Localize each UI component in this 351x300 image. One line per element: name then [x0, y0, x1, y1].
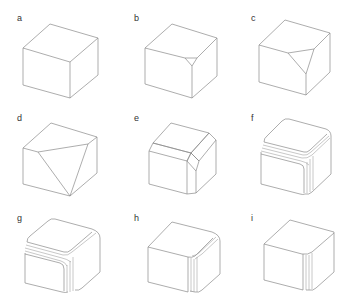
panel-e: e — [117, 100, 234, 200]
cube-large-chamfer-icon — [0, 100, 117, 200]
panel-b: b — [117, 0, 234, 100]
panel-c: c — [234, 0, 351, 100]
panel-f: f — [234, 100, 351, 200]
cube-rounded-multiline-left-icon — [0, 200, 117, 300]
panel-a: a — [0, 0, 117, 100]
panel-h: h — [117, 200, 234, 300]
cube-rounded-multiline-icon — [234, 100, 351, 200]
cube-rounded-vertical-multiline-icon — [117, 200, 234, 300]
cube-plain-icon — [0, 0, 117, 100]
cube-rounded-vertical-icon — [234, 200, 351, 300]
panel-d: d — [0, 100, 117, 200]
cube-medium-chamfer-icon — [234, 0, 351, 100]
panel-i: i — [234, 200, 351, 300]
cube-small-chamfer-icon — [117, 0, 234, 100]
panel-g: g — [0, 200, 117, 300]
cube-edge-chamfer-icon — [117, 100, 234, 200]
